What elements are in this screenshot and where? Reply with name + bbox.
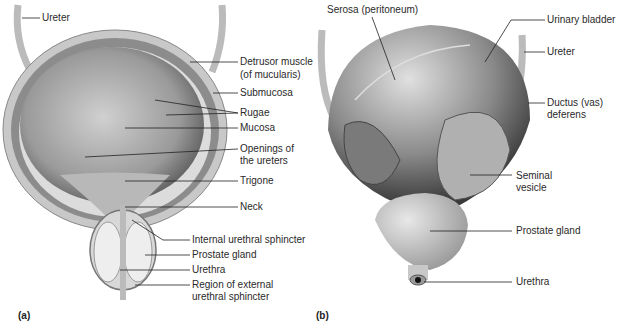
label-internal-urethral-sphincter: Internal urethral sphincter: [192, 234, 305, 246]
label-urethra-a: Urethra: [192, 264, 225, 276]
label-trigone: Trigone: [240, 175, 274, 187]
label-openings-ureters-sub: the ureters: [240, 155, 288, 167]
panel-label-b: (b): [316, 310, 329, 321]
label-seminal-vesicle-sub: vesicle: [516, 182, 547, 194]
label-external-urethral-sphincter-sub: urethral sphincter: [192, 291, 269, 303]
label-ductus-deferens-sub: deferens: [547, 109, 586, 121]
label-ductus-deferens: Ductus (vas): [547, 97, 603, 109]
bladder-external-b: [321, 25, 530, 285]
label-submucosa: Submucosa: [240, 87, 293, 99]
label-serosa: Serosa (peritoneum): [327, 4, 418, 16]
label-neck: Neck: [240, 201, 263, 213]
label-seminal-vesicle: Seminal: [516, 170, 552, 182]
label-urinary-bladder: Urinary bladder: [547, 14, 615, 26]
label-prostate-gland-a: Prostate gland: [192, 249, 257, 261]
label-prostate-gland-b: Prostate gland: [516, 225, 581, 237]
label-rugae: Rugae: [240, 107, 269, 119]
label-external-urethral-sphincter: Region of external: [192, 279, 273, 291]
label-ureter-a: Ureter: [42, 12, 70, 24]
label-mucosa: Mucosa: [240, 122, 275, 134]
label-detrusor-muscle-sub: (of mucularis): [240, 69, 301, 81]
label-ureter-b: Ureter: [547, 46, 575, 58]
label-urethra-b: Urethra: [516, 276, 549, 288]
label-detrusor-muscle: Detrusor muscle: [240, 56, 313, 68]
panel-label-a: (a): [18, 310, 30, 321]
label-openings-ureters: Openings of: [240, 143, 294, 155]
